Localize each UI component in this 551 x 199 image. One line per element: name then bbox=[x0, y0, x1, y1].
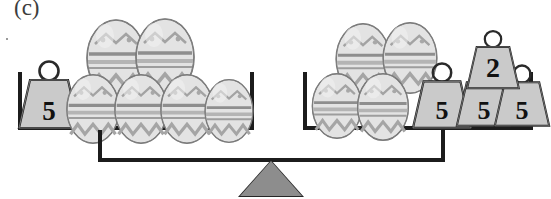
egg-right-bottom-2[interactable] bbox=[355, 72, 411, 142]
paper-speck bbox=[6, 38, 8, 40]
egg-left-bottom-4[interactable] bbox=[203, 78, 255, 144]
weight-value: 5 bbox=[493, 98, 551, 124]
figure-label: (c) bbox=[14, 0, 40, 21]
weight-value: 2 bbox=[464, 54, 522, 82]
right-pan-wall-left bbox=[303, 72, 307, 130]
figure-canvas: (c) bbox=[0, 0, 551, 199]
triangle-fulcrum-icon bbox=[240, 161, 302, 196]
weight-right-2[interactable]: 2 bbox=[464, 28, 522, 90]
